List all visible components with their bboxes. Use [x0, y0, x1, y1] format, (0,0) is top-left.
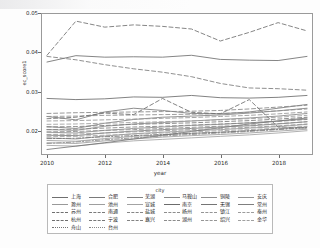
- legend-key-dashed-icon: [51, 217, 69, 223]
- legend-key-solid-icon: [51, 201, 69, 207]
- legend-label: 扬州: [181, 208, 193, 215]
- legend-label: 常州: [255, 201, 267, 208]
- x-tick-label: 2018: [272, 160, 286, 166]
- legend-label: 嘉兴: [144, 216, 156, 223]
- legend-row: 杭州宁波嘉兴湖州绍兴金华: [51, 216, 269, 224]
- legend-key-solid-icon: [163, 201, 181, 207]
- legend-item-金华[interactable]: 金华: [237, 216, 274, 223]
- legend-key-dashed-icon: [51, 209, 69, 215]
- legend-item-宁波[interactable]: 宁波: [88, 216, 125, 223]
- legend-label: 铜陵: [218, 193, 230, 200]
- legend-item-舟山[interactable]: 舟山: [51, 224, 88, 231]
- series-lines: [41, 13, 313, 155]
- legend-key-solid-icon: [163, 194, 181, 200]
- legend-label: 南通: [106, 208, 118, 215]
- legend-key-solid-icon: [126, 201, 144, 207]
- legend-key-dashdot-icon: [88, 224, 106, 230]
- legend-label: 宁波: [106, 216, 118, 223]
- legend-item-常州[interactable]: 常州: [237, 201, 274, 208]
- legend-item-台州[interactable]: 台州: [88, 224, 125, 231]
- legend-key-solid-icon: [51, 194, 69, 200]
- x-tick-mark: [279, 155, 280, 158]
- legend-label: 无锡: [218, 201, 230, 208]
- legend-key-dashed-icon: [88, 217, 106, 223]
- legend-label: 宣城: [144, 201, 156, 208]
- x-tick-label: 2010: [40, 160, 54, 166]
- scan-artifact: [0, 0, 320, 9]
- legend-key-solid-icon: [126, 194, 144, 200]
- legend-item-上海[interactable]: 上海: [51, 193, 88, 200]
- legend-label: 苏州: [69, 208, 81, 215]
- legend-key-dashed-icon: [163, 217, 181, 223]
- legend-key-solid-icon: [88, 194, 106, 200]
- legend-item-扬州[interactable]: 扬州: [163, 208, 200, 215]
- legend-item-泰州[interactable]: 泰州: [237, 208, 274, 215]
- legend-key-solid-icon: [237, 194, 255, 200]
- legend-label: 芜湖: [144, 193, 156, 200]
- legend-label: 马鞍山: [181, 193, 198, 200]
- x-axis-label: year: [0, 170, 320, 176]
- legend-row: 苏州南通盐城扬州镇江泰州: [51, 208, 269, 216]
- legend-key-dashed-icon: [237, 209, 255, 215]
- y-axis: 0.05 0.04 0.03 0.02: [8, 0, 38, 248]
- legend-label: 南京: [181, 201, 193, 208]
- legend-item-苏州[interactable]: 苏州: [51, 208, 88, 215]
- legend-key-dashed-icon: [237, 217, 255, 223]
- y-axis-label: ec_score1: [21, 43, 27, 103]
- legend-key-dashed-icon: [88, 209, 106, 215]
- legend-label: 湖州: [181, 216, 193, 223]
- chart-figure: 0.05 0.04 0.03 0.02 ec_score1 2010 2012 …: [0, 0, 320, 248]
- legend-item-池州[interactable]: 池州: [88, 201, 125, 208]
- y-tick-label: 0.03: [26, 89, 38, 95]
- x-tick-label: 2016: [214, 160, 228, 166]
- series-line: [47, 95, 307, 99]
- legend-label: 杭州: [69, 216, 81, 223]
- legend-row: 舟山台州: [51, 223, 269, 231]
- legend-key-solid-icon: [88, 201, 106, 207]
- legend-label: 绍兴: [218, 216, 230, 223]
- legend-label: 舟山: [69, 224, 81, 231]
- legend-item-湖州[interactable]: 湖州: [163, 216, 200, 223]
- x-tick-mark: [47, 155, 48, 158]
- series-line: [47, 98, 307, 128]
- legend-item-南通[interactable]: 南通: [88, 208, 125, 215]
- series-line: [47, 128, 307, 144]
- legend-label: 镇江: [218, 208, 230, 215]
- legend-row: 上海合肥芜湖马鞍山铜陵安庆: [51, 193, 269, 201]
- legend-label: 台州: [106, 224, 118, 231]
- legend-key-solid-icon: [237, 201, 255, 207]
- legend-item-绍兴[interactable]: 绍兴: [200, 216, 237, 223]
- legend-item-合肥[interactable]: 合肥: [88, 193, 125, 200]
- legend-key-dashed-icon: [126, 217, 144, 223]
- legend-item-滁州[interactable]: 滁州: [51, 201, 88, 208]
- legend-item-盐城[interactable]: 盐城: [126, 208, 163, 215]
- legend-item-宣城[interactable]: 宣城: [126, 201, 163, 208]
- y-tick-label: 0.04: [26, 49, 38, 55]
- legend-item-镇江[interactable]: 镇江: [200, 208, 237, 215]
- x-tick-mark: [163, 155, 164, 158]
- legend-label: 安庆: [255, 193, 267, 200]
- legend-item-安庆[interactable]: 安庆: [237, 193, 274, 200]
- legend-label: 池州: [106, 201, 118, 208]
- legend-label: 泰州: [255, 208, 267, 215]
- legend-label: 金华: [255, 216, 267, 223]
- legend-item-铜陵[interactable]: 铜陵: [200, 193, 237, 200]
- legend-item-南京[interactable]: 南京: [163, 201, 200, 208]
- legend-rows: 上海合肥芜湖马鞍山铜陵安庆滁州池州宣城南京无锡常州苏州南通盐城扬州镇江泰州杭州宁…: [51, 193, 269, 231]
- legend-label: 合肥: [106, 193, 118, 200]
- series-line: [47, 55, 307, 62]
- x-tick-label: 2014: [156, 160, 170, 166]
- series-line: [47, 21, 307, 55]
- legend-key-dashed-icon: [126, 209, 144, 215]
- legend-item-嘉兴[interactable]: 嘉兴: [126, 216, 163, 223]
- legend-key-dashdot-icon: [51, 224, 69, 230]
- legend-label: 滁州: [69, 201, 81, 208]
- legend-item-芜湖[interactable]: 芜湖: [126, 193, 163, 200]
- legend-key-solid-icon: [200, 201, 218, 207]
- legend-item-杭州[interactable]: 杭州: [51, 216, 88, 223]
- legend-item-无锡[interactable]: 无锡: [200, 201, 237, 208]
- legend-item-马鞍山[interactable]: 马鞍山: [163, 193, 200, 200]
- legend-key-solid-icon: [200, 194, 218, 200]
- x-tick-mark: [105, 155, 106, 158]
- legend-label: 上海: [69, 193, 81, 200]
